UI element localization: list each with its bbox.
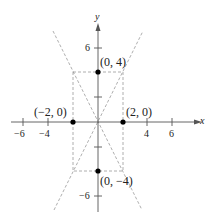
tick-label-x-4: 4 (144, 129, 149, 139)
x-axis-label: x (200, 116, 204, 126)
point-label-left: (−2, 0) (34, 106, 67, 118)
tick-label-y-6: 6 (85, 43, 90, 53)
hyperbola-diagram: y x −6 −4 4 6 6 −6 (0, 4) (−2, 0) (2, 0)… (0, 0, 211, 222)
tick-label-y-neg6: −6 (79, 191, 90, 201)
point-right (120, 119, 125, 124)
point-left (70, 119, 75, 124)
point-label-right: (2, 0) (126, 106, 152, 118)
tick-label-x-6: 6 (169, 129, 174, 139)
point-bottom-vertex (95, 168, 100, 173)
y-axis-label: y (95, 12, 99, 22)
y-axis-arrow-icon (96, 23, 101, 31)
tick-label-x-neg4: −4 (39, 129, 50, 139)
point-label-bottom: (0, −4) (100, 175, 133, 187)
point-label-top: (0, 4) (100, 56, 126, 68)
point-top-vertex (95, 69, 100, 74)
tick-label-x-neg6: −6 (14, 129, 25, 139)
diagram-canvas (0, 0, 211, 222)
